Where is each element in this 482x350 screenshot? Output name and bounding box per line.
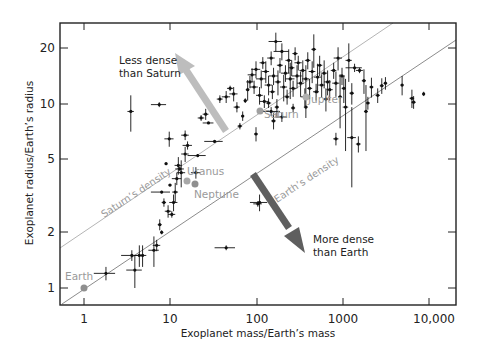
exoplanet-point — [289, 60, 295, 76]
x-tick-10000: 10,000 — [413, 312, 455, 326]
exoplanet-point — [246, 80, 250, 101]
y-tick-20: 20 — [40, 41, 55, 55]
exoplanet-point — [347, 107, 356, 187]
jupiter-label: Jupiter — [307, 93, 343, 105]
earth-density-line — [62, 40, 456, 304]
exoplanet-point — [172, 183, 178, 203]
exoplanet-point — [181, 131, 188, 141]
exoplanet-point — [281, 65, 290, 82]
x-tick-10: 10 — [162, 312, 177, 326]
exoplanet-point — [269, 85, 275, 99]
exoplanet-point — [266, 98, 271, 108]
saturn-label: Saturn — [264, 108, 299, 120]
exoplanet-point — [292, 47, 297, 60]
exoplanet-point — [148, 236, 158, 266]
more-dense-label-line1: More dense — [313, 233, 374, 245]
exoplanet-point — [356, 136, 361, 152]
y-tick-2: 2 — [47, 225, 55, 239]
exoplanet-point — [151, 190, 170, 193]
exoplanet-point — [222, 91, 230, 103]
exoplanet-point — [169, 195, 177, 212]
exoplanet-point — [94, 267, 115, 280]
exoplanet-point — [198, 115, 205, 121]
exoplanet-point — [364, 85, 368, 151]
exoplanet-point — [269, 33, 282, 52]
exoplanet-point — [215, 245, 235, 250]
exoplanet-point — [254, 127, 258, 141]
exoplanet-point — [165, 205, 171, 217]
more-dense-label-line2: than Earth — [313, 246, 368, 258]
exoplanet-point — [227, 86, 233, 91]
exoplanet-point — [260, 95, 269, 108]
less-dense-label-line2: than Saturn — [119, 67, 181, 79]
x-axis-title: Exoplanet mass/Earth’s mass — [181, 327, 336, 339]
earth-marker — [81, 285, 88, 292]
exoplanet-point — [380, 78, 384, 94]
x-tick-100: 100 — [246, 312, 269, 326]
earth-label: Earth — [65, 270, 93, 282]
y-tick-10: 10 — [40, 97, 55, 111]
y-tick-1: 1 — [47, 281, 55, 295]
saturn-marker — [257, 108, 264, 115]
exoplanet-point — [375, 88, 379, 103]
neptune-label: Neptune — [194, 188, 239, 200]
exoplanet-point — [172, 173, 181, 185]
exoplanet-point — [158, 219, 162, 230]
exoplanet-point — [162, 198, 166, 206]
exoplanet-point — [183, 141, 192, 149]
exoplanet-point — [203, 121, 214, 124]
exoplanet-point — [188, 154, 206, 157]
exoplanet-point — [260, 57, 266, 69]
y-axis-title: Exoplanet radius/Earth’s radius — [23, 81, 35, 245]
uranus-marker — [184, 178, 191, 185]
exoplanet-point — [333, 133, 338, 146]
y-tick-5: 5 — [47, 152, 55, 166]
exoplanet-point — [234, 102, 240, 112]
exoplanet-point — [168, 183, 171, 186]
x-tick-1: 1 — [80, 312, 88, 326]
exoplanet-point — [164, 162, 167, 165]
exoplanet-point — [346, 43, 352, 82]
x-tick-1000: 1000 — [328, 312, 359, 326]
earth-density-label: Earth’s density — [272, 154, 341, 205]
neptune-marker — [192, 181, 199, 188]
exoplanet-point — [175, 167, 184, 171]
exoplanet-point — [256, 70, 266, 88]
uranus-label: Uranus — [187, 165, 224, 177]
exoplanet-point — [160, 230, 163, 234]
exoplanet-point — [267, 51, 274, 65]
exoplanet-point — [275, 70, 281, 95]
exoplanet-point — [356, 68, 363, 73]
exoplanet-point — [256, 87, 263, 105]
exoplanet-point — [238, 123, 243, 129]
y-axis — [60, 48, 456, 288]
exoplanet-point — [362, 69, 366, 94]
less-dense-label-line1: Less dense — [119, 54, 177, 66]
exoplanet-mass-radius-chart: Saturn’s density Earth’s density Less de… — [0, 0, 482, 350]
exoplanet-point — [422, 92, 425, 96]
exoplanet-point — [127, 95, 133, 131]
exoplanet-point — [241, 111, 244, 120]
exoplanet-point — [285, 49, 291, 73]
exoplanet-point — [369, 78, 373, 98]
exoplanet-point — [244, 98, 247, 103]
exoplanet-point — [349, 83, 354, 104]
exoplanet-point — [151, 102, 166, 107]
exoplanet-point — [401, 76, 404, 95]
exoplanet-point — [164, 132, 173, 147]
exoplanet-point — [285, 90, 290, 105]
